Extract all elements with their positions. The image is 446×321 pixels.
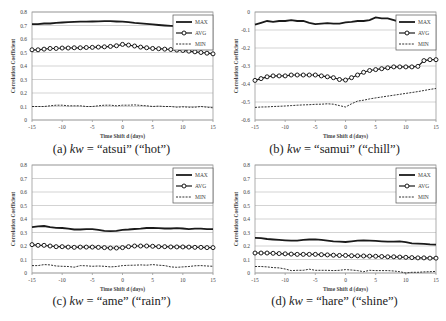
legend-label: AVG bbox=[418, 30, 429, 36]
x-tick-label: -5 bbox=[313, 277, 318, 283]
y-axis-title: Correlation Coefficient bbox=[233, 39, 239, 94]
x-tick-label: 5 bbox=[374, 277, 377, 283]
y-tick-label: 0.4 bbox=[20, 63, 27, 69]
x-tick-label: -15 bbox=[251, 124, 259, 130]
x-tick-label: 15 bbox=[433, 277, 439, 283]
y-tick-label: -0.2 bbox=[241, 45, 250, 51]
x-tick-label: 0 bbox=[121, 124, 124, 130]
legend-label: MIN bbox=[195, 41, 206, 47]
y-tick-label: 0.2 bbox=[243, 243, 250, 249]
x-axis-title: Time Shift d (days) bbox=[323, 133, 368, 140]
x-tick-label: 0 bbox=[344, 277, 347, 283]
x-tick-label: 10 bbox=[403, 277, 409, 283]
x-tick-label: -15 bbox=[251, 277, 259, 283]
y-tick-label: 0.1 bbox=[243, 257, 250, 263]
x-tick-label: -10 bbox=[281, 277, 289, 283]
x-tick-label: 0 bbox=[344, 124, 347, 130]
series-max bbox=[32, 226, 213, 231]
legend-label: AVG bbox=[195, 30, 206, 36]
y-tick-label: 0.7 bbox=[20, 23, 27, 29]
series-min bbox=[255, 267, 436, 274]
x-tick-label: -5 bbox=[90, 277, 95, 283]
x-tick-label: -10 bbox=[281, 124, 289, 130]
x-axis-title: Time Shift d (days) bbox=[100, 286, 145, 293]
legend-label: MAX bbox=[418, 172, 431, 178]
x-tick-label: 15 bbox=[210, 277, 216, 283]
y-tick-label: -0.6 bbox=[241, 117, 250, 123]
x-tick-label: 5 bbox=[374, 124, 377, 130]
y-tick-label: 0.3 bbox=[20, 230, 27, 236]
y-tick-label: 0 bbox=[247, 270, 250, 276]
y-tick-label: 0.5 bbox=[243, 203, 250, 209]
y-tick-label: -0.5 bbox=[241, 99, 250, 105]
legend-label: MIN bbox=[195, 194, 206, 200]
y-tick-label: 0.6 bbox=[20, 36, 27, 42]
y-tick-label: 0.2 bbox=[20, 243, 27, 249]
x-axis-title: Time Shift d (days) bbox=[323, 286, 368, 293]
y-tick-label: 0.4 bbox=[243, 216, 250, 222]
y-tick-label: -0.1 bbox=[241, 27, 250, 33]
series-avg bbox=[253, 58, 438, 83]
y-tick-label: 0.6 bbox=[20, 189, 27, 195]
caption-c: (c) kw = “ame” (“rain”) bbox=[0, 294, 223, 309]
chart-panel-b: -0.6-0.5-0.4-0.3-0.2-0.10-15-10-5051015T… bbox=[223, 0, 446, 160]
x-tick-label: -15 bbox=[28, 277, 36, 283]
series-avg bbox=[253, 251, 438, 260]
caption-d: (d) kw = “hare” (“shine”) bbox=[223, 294, 446, 309]
series-min bbox=[32, 265, 213, 268]
chart-d: 00.10.20.30.40.50.60.70.8-15-10-5051015T… bbox=[223, 153, 446, 298]
y-tick-label: 0.1 bbox=[20, 257, 27, 263]
chart-a: 00.10.20.30.40.50.60.70.8-15-10-5051015T… bbox=[0, 0, 223, 145]
x-tick-label: 10 bbox=[403, 124, 409, 130]
chart-panel-c: 00.10.20.30.40.50.60.70.8-15-10-5051015T… bbox=[0, 153, 223, 313]
x-tick-label: -5 bbox=[313, 124, 318, 130]
y-tick-label: 0.3 bbox=[243, 230, 250, 236]
y-axis-title: Correlation Coefficient bbox=[10, 192, 16, 247]
x-tick-label: 5 bbox=[151, 124, 154, 130]
legend-label: AVG bbox=[195, 183, 206, 189]
legend-label: AVG bbox=[418, 183, 429, 189]
legend: MAXAVGMIN bbox=[173, 15, 213, 50]
series-avg bbox=[30, 243, 215, 250]
y-axis-title: Correlation Coefficient bbox=[233, 192, 239, 247]
series-max bbox=[255, 238, 436, 245]
chart-panel-a: 00.10.20.30.40.50.60.70.8-15-10-5051015T… bbox=[0, 0, 223, 160]
y-tick-label: 0.4 bbox=[20, 216, 27, 222]
y-tick-label: -0.3 bbox=[241, 63, 250, 69]
legend: MAXAVGMIN bbox=[396, 15, 436, 50]
x-tick-label: 15 bbox=[433, 124, 439, 130]
y-tick-label: 0.6 bbox=[243, 189, 250, 195]
y-tick-label: 0 bbox=[24, 270, 27, 276]
y-tick-label: 0.7 bbox=[243, 176, 250, 182]
y-tick-label: -0.4 bbox=[241, 81, 250, 87]
y-tick-label: 0.5 bbox=[20, 50, 27, 56]
x-tick-label: 15 bbox=[210, 124, 216, 130]
y-tick-label: 0.8 bbox=[20, 162, 27, 168]
y-axis-title: Correlation Coefficient bbox=[10, 39, 16, 94]
legend: MAXAVGMIN bbox=[173, 168, 213, 203]
x-tick-label: 0 bbox=[121, 277, 124, 283]
legend-label: MAX bbox=[195, 19, 208, 25]
legend: MAXAVGMIN bbox=[396, 168, 436, 203]
x-tick-label: 10 bbox=[180, 277, 186, 283]
legend-label: MIN bbox=[418, 41, 429, 47]
x-tick-label: 10 bbox=[180, 124, 186, 130]
chart-b: -0.6-0.5-0.4-0.3-0.2-0.10-15-10-5051015T… bbox=[223, 0, 446, 145]
y-tick-label: 0 bbox=[24, 117, 27, 123]
y-tick-label: 0.7 bbox=[20, 176, 27, 182]
chart-panel-d: 00.10.20.30.40.50.60.70.8-15-10-5051015T… bbox=[223, 153, 446, 313]
y-tick-label: 0.8 bbox=[243, 162, 250, 168]
y-tick-label: 0.1 bbox=[20, 104, 27, 110]
x-tick-label: -15 bbox=[28, 124, 36, 130]
y-tick-label: 0 bbox=[247, 9, 250, 15]
chart-c: 00.10.20.30.40.50.60.70.8-15-10-5051015T… bbox=[0, 153, 223, 298]
series-min bbox=[255, 89, 436, 108]
x-tick-label: -10 bbox=[58, 124, 66, 130]
y-tick-label: 0.8 bbox=[20, 9, 27, 15]
x-tick-label: -10 bbox=[58, 277, 66, 283]
x-tick-label: 5 bbox=[151, 277, 154, 283]
x-tick-label: -5 bbox=[90, 124, 95, 130]
x-axis-title: Time Shift d (days) bbox=[100, 133, 145, 140]
y-tick-label: 0.5 bbox=[20, 203, 27, 209]
legend-label: MIN bbox=[418, 194, 429, 200]
